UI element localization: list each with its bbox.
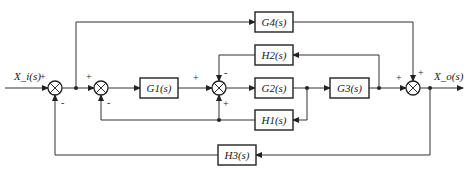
input-label: X_i(s)	[13, 70, 41, 83]
sum1-plus-sign: +	[40, 71, 46, 82]
feedforward-g4-path: G4(s)	[76, 12, 413, 88]
output-signal: X_o(s)	[420, 70, 464, 90]
h3-label: H3(s)	[223, 149, 249, 162]
output-label: X_o(s)	[433, 70, 464, 83]
h1-label: H1(s)	[260, 114, 286, 127]
block-g2: G2(s)	[255, 78, 293, 98]
block-g1: G1(s)	[140, 78, 178, 98]
g1-label: G1(s)	[146, 82, 171, 95]
feedback-h3-path: H3(s)	[55, 88, 430, 165]
sum2-minus-sign: -	[107, 97, 110, 108]
sum4-plus-sign: +	[396, 72, 402, 83]
block-diagram: X_i(s) + - + - G1(s) + - + G2(s)	[0, 0, 469, 174]
sum3-plus-bottom-sign: +	[223, 98, 229, 109]
g4-label: G4(s)	[261, 16, 286, 29]
input-signal: X_i(s) +	[5, 70, 48, 88]
block-g3: G3(s)	[330, 78, 369, 98]
summing-junction-1: -	[48, 81, 64, 108]
summing-junction-2: -	[94, 81, 110, 108]
sum3-minus-sign: -	[224, 67, 227, 78]
sum1-minus-sign: -	[61, 97, 64, 108]
sum4-plus-top-sign: +	[418, 67, 424, 78]
g3-label: G3(s)	[337, 82, 362, 95]
summing-junction-4: +	[406, 67, 424, 95]
g2-label: G2(s)	[261, 82, 286, 95]
h2-label: H2(s)	[260, 49, 286, 62]
sum3-plus-sign: +	[193, 72, 199, 83]
sum2-plus-sign: +	[86, 71, 92, 82]
